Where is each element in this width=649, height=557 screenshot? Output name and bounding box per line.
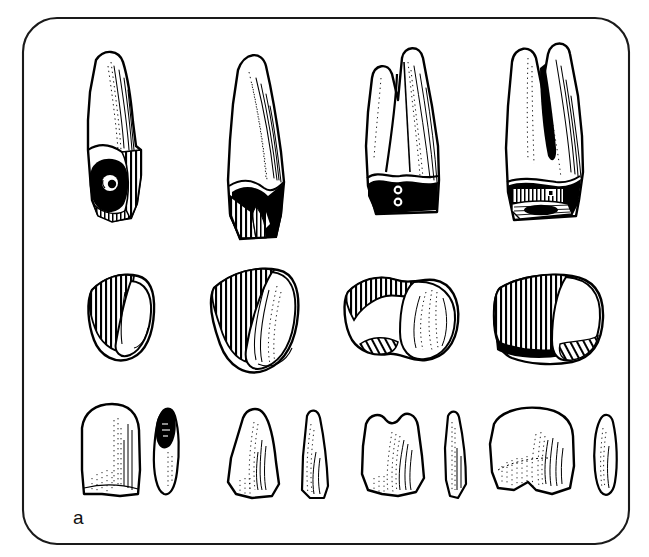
specimen-r3c3-premolar-crown — [362, 412, 466, 498]
figure-plate: a — [0, 0, 649, 557]
panel-label: a — [73, 508, 84, 527]
specimen-r1c4-molar-lateral — [506, 44, 583, 221]
specimen-r2c3-premolar-occlusal — [345, 278, 459, 361]
specimen-r2c1-central-incisor-occlusal — [88, 275, 154, 361]
specimen-r3c1-central-incisor-crown — [82, 404, 179, 496]
specimen-r2c4-molar-occlusal — [494, 275, 603, 364]
dental-anatomy-illustration — [0, 0, 649, 557]
